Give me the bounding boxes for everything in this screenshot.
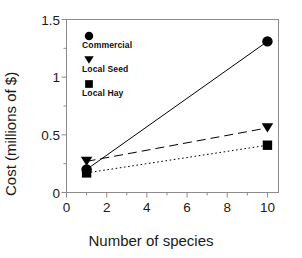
y-tick-label: 0.5 xyxy=(14,127,60,142)
legend-label: Local Seed xyxy=(82,64,128,74)
data-point-local-seed xyxy=(81,157,93,166)
legend-triangle-down-marker xyxy=(82,52,98,64)
y-tick-label: 0 xyxy=(14,185,60,200)
legend-label: Commercial xyxy=(82,40,132,50)
y-tick-label: 1 xyxy=(14,70,60,85)
x-tick-label: 4 xyxy=(143,200,151,215)
data-point-commercial xyxy=(262,36,272,46)
y-tick-label: 1.5 xyxy=(14,12,60,27)
x-tick-label: 2 xyxy=(103,200,111,215)
series-line-local-seed xyxy=(87,128,268,161)
series-line-commercial xyxy=(87,41,268,169)
data-point-local-seed xyxy=(262,123,274,132)
x-tick-label: 6 xyxy=(183,200,191,215)
legend-square-marker xyxy=(82,76,98,88)
x-tick-label: 0 xyxy=(63,200,71,215)
data-point-local-hay xyxy=(263,141,272,150)
x-tick-label: 8 xyxy=(223,200,231,215)
legend-label: Local Hay xyxy=(82,88,124,98)
x-tick-label: 10 xyxy=(260,200,275,215)
series-lines xyxy=(87,41,268,172)
legend-circle-marker xyxy=(82,28,98,40)
x-axis-title: Number of species xyxy=(0,232,302,249)
chart-figure: Cost (millions of $) Number of species 0… xyxy=(0,0,302,258)
data-point-local-hay xyxy=(82,168,91,177)
series-line-local-hay xyxy=(87,145,268,173)
